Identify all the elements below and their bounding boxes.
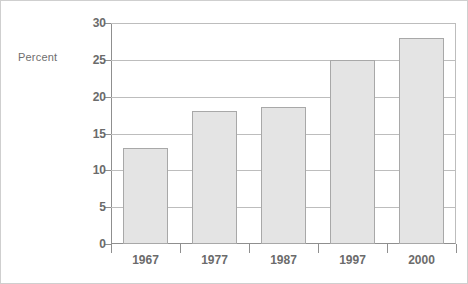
y-axis-title: Percent [18,51,57,63]
x-axis-label: 1997 [339,253,366,267]
bar [399,38,444,244]
y-tick-label: 10 [93,163,106,177]
x-axis-label: 1967 [132,253,159,267]
x-axis-label: 2000 [408,253,435,267]
x-axis-label: 1987 [270,253,297,267]
x-tick-mark [180,244,181,253]
x-tick-mark [387,244,388,253]
y-tick-label: 30 [93,16,106,30]
x-tick-mark [111,244,112,253]
bar [192,111,237,244]
x-axis-label: 1977 [201,253,228,267]
bar [123,148,168,244]
y-tick-label: 0 [99,237,106,251]
x-tick-mark [456,244,457,253]
y-tick-label: 20 [93,90,106,104]
x-tick-mark [249,244,250,253]
y-tick-label: 5 [99,200,106,214]
bar [330,60,375,244]
bar [261,107,306,244]
y-tick-label: 15 [93,127,106,141]
y-tick-label: 25 [93,53,106,67]
x-tick-mark [318,244,319,253]
chart-figure: Percent 051015202530 1967197719871997200… [0,0,468,284]
plot-area: 051015202530 [111,23,456,244]
gridline [111,23,456,24]
